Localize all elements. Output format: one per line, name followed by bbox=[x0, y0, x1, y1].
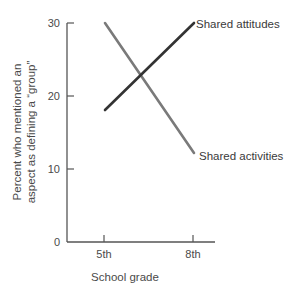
x-axis-title: School grade bbox=[91, 271, 159, 283]
series-line-shared-activities bbox=[105, 23, 194, 153]
y-axis-title-line2: aspect as defining a “group” bbox=[25, 61, 37, 204]
y-tick-label: 20 bbox=[48, 90, 60, 102]
series-label-shared-attitudes: Shared attitudes bbox=[196, 18, 280, 30]
y-tick-label: 10 bbox=[48, 163, 60, 175]
x-tick-label: 8th bbox=[185, 248, 200, 260]
x-tick-label: 5th bbox=[96, 248, 111, 260]
y-tick-label: 0 bbox=[54, 236, 60, 248]
series-label-shared-activities: Shared activities bbox=[199, 150, 284, 162]
y-axis-title-line1: Percent who mentioned an bbox=[11, 64, 23, 201]
line-chart: 30 20 10 0 5th 8th School grade Percent … bbox=[0, 0, 301, 289]
series-line-shared-attitudes bbox=[105, 23, 194, 110]
y-tick-label: 30 bbox=[48, 17, 60, 29]
